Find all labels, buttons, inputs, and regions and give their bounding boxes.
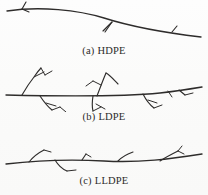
lldpe-subbranch	[178, 151, 184, 154]
ldpe-subbranch	[45, 71, 52, 75]
hdpe-main-chain	[7, 9, 201, 37]
hdpe-branch	[172, 26, 177, 32]
ldpe-branch	[106, 73, 118, 84]
ldpe-subbranch	[154, 105, 162, 108]
ldpe-subbranch	[148, 100, 157, 103]
caption-lldpe: (c)LLDPE	[0, 176, 208, 187]
caption-hdpe-label: HDPE	[98, 45, 126, 56]
ldpe-subbranch	[52, 107, 60, 110]
lldpe-chain-diagram	[0, 126, 208, 176]
lldpe-branch	[160, 151, 178, 161]
ldpe-branch	[22, 68, 41, 95]
lldpe-subbranch	[86, 154, 91, 157]
caption-lldpe-label: LLDPE	[95, 175, 129, 186]
ldpe-subbranch	[93, 81, 101, 85]
caption-hdpe: (a)HDPE	[0, 46, 208, 57]
ldpe-chain-diagram	[0, 62, 208, 112]
ldpe-branch	[92, 96, 93, 111]
ldpe-branch	[97, 73, 106, 96]
caption-ldpe-tag: (b)	[83, 111, 96, 122]
panel-lldpe: (c)LLDPE	[0, 126, 208, 195]
hdpe-branch	[22, 2, 26, 9]
lldpe-branch	[82, 154, 86, 160]
ldpe-subbranch	[185, 93, 193, 95]
caption-ldpe: (b)LDPE	[0, 112, 208, 123]
caption-ldpe-label: LDPE	[98, 111, 125, 122]
lldpe-subbranch	[67, 170, 76, 171]
hdpe-chain-diagram	[0, 0, 208, 44]
lldpe-branch	[118, 152, 133, 161]
lldpe-subbranch	[44, 150, 51, 152]
lldpe-subbranch	[178, 146, 182, 151]
panel-hdpe: (a)HDPE	[0, 0, 208, 62]
ldpe-main-chain	[6, 87, 202, 96]
caption-hdpe-tag: (a)	[82, 45, 94, 56]
hdpe-branch	[105, 22, 112, 32]
ldpe-subbranch	[96, 104, 105, 109]
ldpe-subbranch	[86, 81, 93, 86]
polyethylene-chain-architecture-figure: (a)HDPE (b	[0, 0, 208, 195]
caption-lldpe-tag: (c)	[80, 175, 92, 186]
lldpe-branch	[29, 150, 44, 162]
ldpe-subbranch	[41, 68, 45, 75]
lldpe-branch	[55, 160, 67, 171]
panel-ldpe: (b)LDPE	[0, 62, 208, 126]
